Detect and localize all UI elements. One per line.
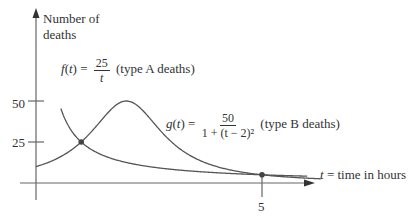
tick-label-5: 5 [258,200,265,213]
y-axis-label-line2: deaths [43,27,100,43]
g-numerator: 50 [220,112,236,126]
g-annotation: g(t) = 50 1 + (t − 2)² (type B deaths) [166,112,340,139]
f-annotation: f(t) = 25 t (type A deaths) [61,57,195,84]
f-fraction: 25 t [94,57,110,84]
g-annotation-suffix: (type B deaths) [260,116,339,131]
tick-label-25: 25 [12,136,25,149]
x-axis-label-text: = time in hours [327,167,406,182]
g-annotation-lhs: g(t) = [166,116,195,131]
f-denominator: t [100,71,103,84]
g-fraction: 50 1 + (t − 2)² [202,112,254,139]
y-axis-label: Number of deaths [43,11,100,43]
f-annotation-lhs: f(t) = [61,61,88,76]
x-axis-label: t = time in hours [320,168,406,181]
tick-label-50: 50 [12,97,25,110]
f-annotation-suffix: (type A deaths) [116,61,195,76]
f-numerator: 25 [94,57,110,71]
g-denominator: 1 + (t − 2)² [202,126,254,139]
y-axis-label-line1: Number of [43,11,100,27]
x-axis-variable: t [320,167,324,182]
